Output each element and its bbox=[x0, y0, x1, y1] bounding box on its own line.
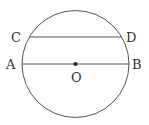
geometry-diagram: C D A B O bbox=[0, 0, 149, 125]
label-d: D bbox=[126, 30, 136, 45]
label-o: O bbox=[71, 70, 82, 85]
center-point-o bbox=[74, 62, 78, 66]
label-c: C bbox=[11, 30, 21, 45]
label-b: B bbox=[132, 57, 142, 72]
label-a: A bbox=[5, 57, 16, 72]
